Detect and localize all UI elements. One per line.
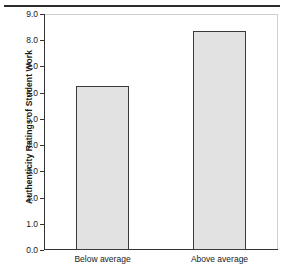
y-axis-tick-label: 0.0 xyxy=(26,245,38,255)
y-axis-tick xyxy=(40,224,44,225)
y-axis-tick-label: 4.0 xyxy=(26,140,38,150)
y-axis-tick xyxy=(40,171,44,172)
y-axis-tick xyxy=(40,198,44,199)
bar-chart-figure: Authenticity Ratings of Student Work 0.0… xyxy=(0,0,284,275)
caption-divider-rule xyxy=(4,5,280,7)
y-axis-tick xyxy=(40,93,44,94)
y-axis-tick-label: 8.0 xyxy=(26,35,38,45)
y-axis-tick-label: 9.0 xyxy=(26,9,38,19)
plot-frame-right xyxy=(277,14,278,250)
y-axis-tick-label: 6.0 xyxy=(26,88,38,98)
plot-area: 0.01.02.03.04.05.06.07.08.09.0 Below ave… xyxy=(44,14,278,250)
x-axis-category-label: Above average xyxy=(191,254,248,264)
y-axis-tick xyxy=(40,145,44,146)
caption-text-clipped xyxy=(60,0,230,4)
y-axis-tick xyxy=(40,66,44,67)
y-axis-tick-label: 5.0 xyxy=(26,114,38,124)
y-axis-tick-label: 3.0 xyxy=(26,166,38,176)
y-axis-tick-label: 2.0 xyxy=(26,193,38,203)
y-axis-tick-label: 7.0 xyxy=(26,61,38,71)
y-axis-line xyxy=(44,14,45,250)
x-axis-category-label: Below average xyxy=(74,254,130,264)
y-axis-tick xyxy=(40,40,44,41)
y-axis-tick xyxy=(40,119,44,120)
y-axis-tick xyxy=(40,14,44,15)
plot-frame-top xyxy=(44,14,278,15)
bar xyxy=(76,86,129,250)
bar xyxy=(193,31,246,250)
y-axis-tick-label: 1.0 xyxy=(26,219,38,229)
y-axis-tick xyxy=(40,250,44,251)
